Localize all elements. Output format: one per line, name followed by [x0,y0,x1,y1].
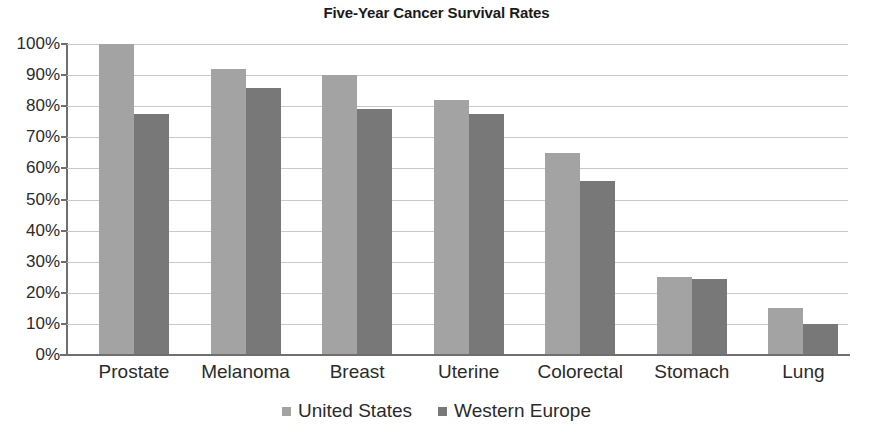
legend-item[interactable]: United States [282,400,412,422]
chart-title: Five-Year Cancer Survival Rates [0,4,873,21]
y-axis-ticks [0,44,70,355]
bar[interactable] [211,69,246,355]
bar[interactable] [803,324,838,355]
x-axis-tick-label: Colorectal [515,360,645,384]
legend-label: United States [298,400,412,422]
bar-group [545,44,615,355]
bar[interactable] [134,114,169,355]
legend-swatch-icon [282,407,291,416]
bar-group [768,44,838,355]
x-axis-labels: ProstateMelanomaBreastUterineColorectalS… [67,360,848,390]
legend-label: Western Europe [454,400,591,422]
x-axis-line [60,354,850,356]
x-axis-tick-label: Prostate [69,360,199,384]
bar[interactable] [692,279,727,355]
bar[interactable] [580,181,615,355]
bar-group [322,44,392,355]
bar[interactable] [657,277,692,355]
bar[interactable] [768,308,803,355]
legend-swatch-icon [438,407,447,416]
bar-group [434,44,504,355]
x-axis-tick-label: Uterine [404,360,534,384]
x-axis-tick-label: Melanoma [181,360,311,384]
bar[interactable] [434,100,469,355]
chart-legend: United StatesWestern Europe [0,400,873,422]
chart-container: Five-Year Cancer Survival Rates 0%10%20%… [0,0,873,447]
bar[interactable] [357,109,392,355]
bar-group [211,44,281,355]
bar[interactable] [545,153,580,355]
bar[interactable] [246,88,281,355]
bar-group [657,44,727,355]
x-axis-tick-label: Stomach [627,360,757,384]
bar-group [99,44,169,355]
legend-item[interactable]: Western Europe [438,400,591,422]
plot-area [67,44,848,355]
bar[interactable] [99,44,134,355]
bar[interactable] [322,75,357,355]
x-axis-tick-label: Breast [292,360,422,384]
x-axis-tick-label: Lung [738,360,868,384]
bar[interactable] [469,114,504,355]
